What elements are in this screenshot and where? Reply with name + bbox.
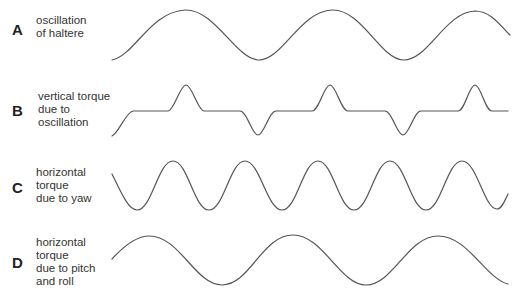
wave-c bbox=[112, 161, 508, 210]
wave-d bbox=[112, 235, 508, 285]
wave-b bbox=[112, 85, 508, 136]
waveform-plots bbox=[0, 0, 520, 302]
wave-a bbox=[112, 10, 510, 60]
